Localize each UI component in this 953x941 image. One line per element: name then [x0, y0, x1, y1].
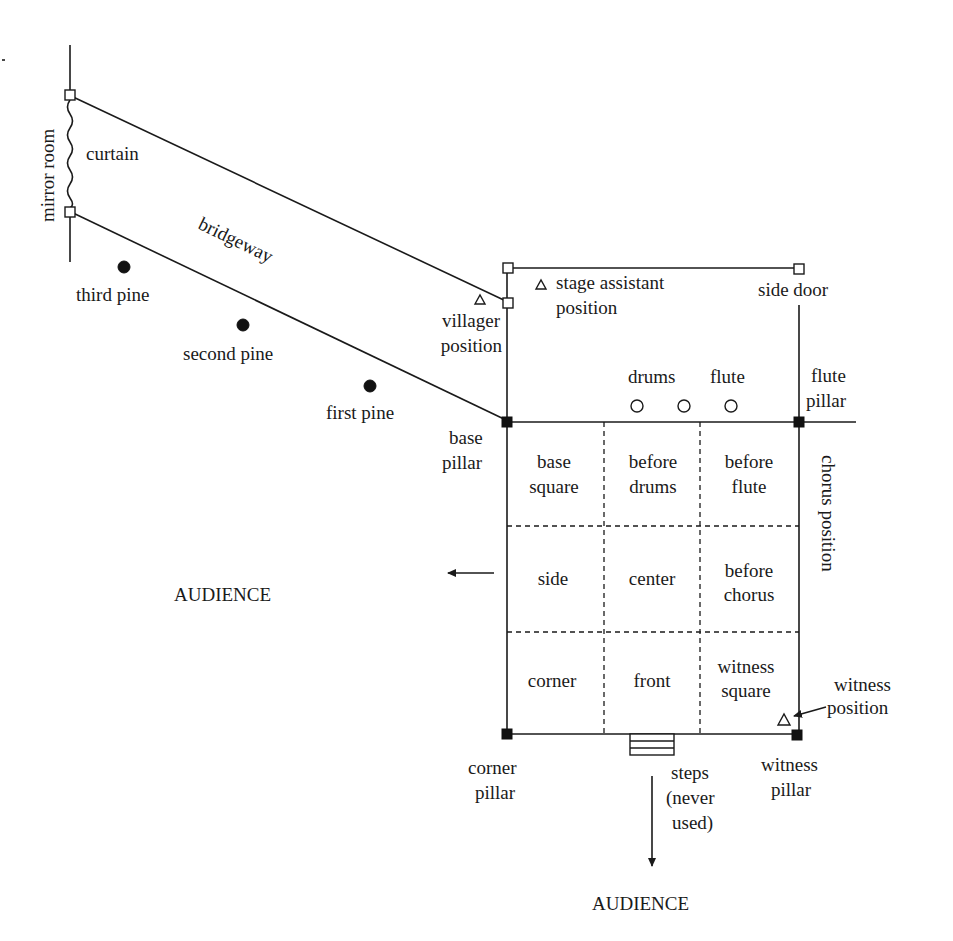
- second-pine-label: second pine: [183, 343, 273, 364]
- grid-cell-side: side: [538, 568, 569, 589]
- mirror-room-wall: [68, 45, 73, 262]
- steps-label-1: steps: [671, 762, 709, 783]
- chorus-position-label: chorus position: [818, 455, 839, 572]
- first-pine-icon: [364, 380, 376, 392]
- grid-cell-witness-square-2: square: [721, 680, 771, 701]
- grid-cell-base-square-2: square: [529, 476, 579, 497]
- steps-label-2: (never: [666, 787, 715, 809]
- grid-cell-before-flute-1: before: [725, 451, 774, 472]
- witness-position-label-1: witness: [834, 674, 891, 695]
- stage-assistant-label-2: position: [556, 297, 618, 318]
- steps-icon: [630, 734, 674, 755]
- mirror-room-label: mirror room: [37, 128, 58, 222]
- rear-left-post-icon: [503, 263, 513, 273]
- bridgeway-label: bridgeway: [195, 213, 277, 267]
- musician-position-1-icon: [631, 400, 643, 412]
- noh-stage-diagram: mirror room curtain bridgeway third pine…: [0, 0, 953, 941]
- villager-position-label-1: villager: [442, 310, 501, 331]
- base-pillar-label-2: pillar: [442, 452, 483, 473]
- audience-bottom-label: AUDIENCE: [592, 893, 689, 914]
- grid-cell-before-drums-1: before: [629, 451, 678, 472]
- stage-grid-labels: base square before drums before flute si…: [528, 451, 775, 701]
- first-pine-label: first pine: [326, 402, 394, 423]
- second-pine-icon: [237, 319, 249, 331]
- side-door-post-icon: [794, 264, 804, 274]
- witness-pillar-label-1: witness: [761, 754, 818, 775]
- villager-position-label-2: position: [441, 335, 503, 356]
- grid-cell-corner: corner: [528, 670, 577, 691]
- curtain-label: curtain: [86, 143, 139, 164]
- corner-pillar-icon: [502, 729, 512, 739]
- third-pine-label: third pine: [76, 284, 149, 305]
- drums-label: drums: [628, 366, 676, 387]
- grid-cell-before-drums-2: drums: [629, 476, 677, 497]
- witness-position-triangle-icon: [778, 714, 790, 725]
- corner-pillar-label-2: pillar: [475, 782, 516, 803]
- base-pillar-icon: [502, 417, 512, 427]
- base-pillar-label-1: base: [449, 427, 483, 448]
- stage-assistant-label-1: stage assistant: [556, 272, 665, 293]
- flute-pillar-icon: [794, 417, 804, 427]
- steps-label-3: used): [672, 812, 713, 834]
- flute-pillar-label-2: pillar: [806, 390, 847, 411]
- flute-pillar-label-1: flute: [811, 365, 846, 386]
- witness-position-label-2: position: [827, 697, 889, 718]
- curtain-post-bottom-icon: [65, 207, 75, 217]
- musician-position-2-icon: [678, 400, 690, 412]
- musician-position-3-icon: [725, 400, 737, 412]
- grid-cell-before-flute-2: flute: [732, 476, 767, 497]
- grid-cell-center: center: [629, 568, 676, 589]
- villager-triangle-icon: [475, 295, 485, 304]
- side-door-label: side door: [758, 279, 829, 300]
- curtain-post-top-icon: [65, 90, 75, 100]
- witness-pillar-label-2: pillar: [771, 779, 812, 800]
- grid-cell-before-chorus-2: chorus: [724, 584, 775, 605]
- flute-label: flute: [710, 366, 745, 387]
- audience-left-label: AUDIENCE: [174, 584, 271, 605]
- curtain-wavy-line: [68, 100, 73, 208]
- corner-pillar-label-1: corner: [468, 757, 517, 778]
- third-pine-icon: [118, 261, 130, 273]
- grid-cell-witness-square-1: witness: [718, 656, 775, 677]
- grid-cell-base-square-1: base: [537, 451, 571, 472]
- stage-assistant-triangle-icon: [536, 280, 546, 289]
- grid-cell-front: front: [634, 670, 672, 691]
- grid-cell-before-chorus-1: before: [725, 560, 774, 581]
- villager-door-post-icon: [503, 298, 513, 308]
- witness-pillar-icon: [792, 730, 802, 740]
